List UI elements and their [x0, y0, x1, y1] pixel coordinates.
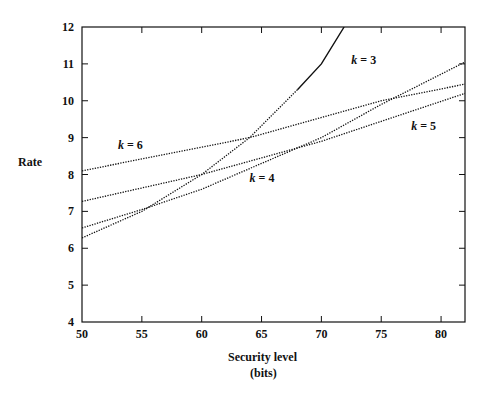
series-k3-solid: [297, 27, 344, 90]
y-tick-label: 11: [63, 57, 74, 71]
y-tick-label: 8: [68, 168, 74, 182]
x-tick-label: 70: [315, 327, 327, 341]
series-label: k = 4: [250, 171, 275, 185]
y-tick-label: 12: [62, 20, 74, 34]
x-tick-label: 50: [76, 327, 88, 341]
series-label: k = 5: [411, 119, 436, 133]
series-k3-dotted: [82, 90, 297, 238]
x-axis-label: Security level: [228, 350, 297, 365]
x-tick-label: 80: [435, 327, 447, 341]
y-tick-label: 6: [68, 241, 74, 255]
x-tick-label: 65: [256, 327, 268, 341]
y-tick-label: 4: [68, 315, 74, 329]
y-tick-label: 7: [68, 204, 74, 218]
series-label: k = 6: [118, 138, 143, 152]
y-axis-label: Rate: [18, 155, 42, 170]
chart-canvas: 50556065707580456789101112k = 3k = 4k = …: [0, 0, 487, 395]
x-tick-label: 60: [196, 327, 208, 341]
x-axis-unit: (bits): [250, 366, 277, 381]
y-tick-label: 9: [68, 131, 74, 145]
y-tick-label: 10: [62, 94, 74, 108]
y-tick-label: 5: [68, 278, 74, 292]
series-k6: [82, 84, 465, 171]
x-tick-label: 75: [375, 327, 387, 341]
x-tick-label: 55: [136, 327, 148, 341]
series-label: k = 3: [351, 53, 376, 67]
